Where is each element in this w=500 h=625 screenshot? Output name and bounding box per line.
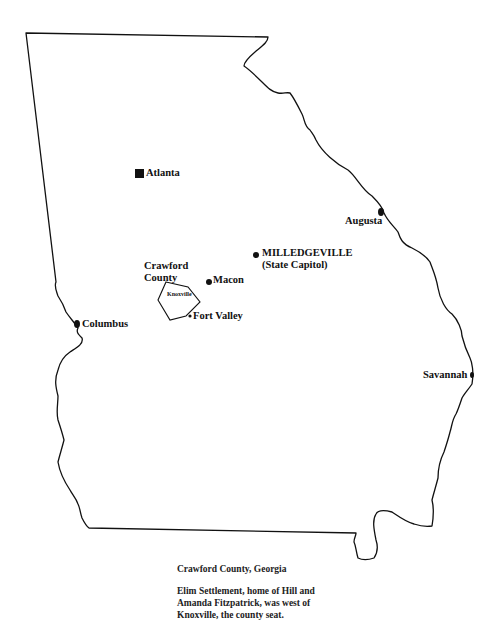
caption-line-3: Knoxville, the county seat.	[177, 609, 284, 621]
macon-label: Macon	[213, 274, 244, 286]
state-capitol-label: (State Capitol)	[262, 259, 328, 271]
caption-line-1: Elim Settlement, home of Hill and	[177, 585, 315, 597]
augusta-label: Augusta	[345, 215, 382, 227]
state-outline	[26, 33, 473, 560]
fort-valley-label: Fort Valley	[193, 310, 243, 322]
macon-marker	[206, 279, 212, 285]
fort-valley-marker	[188, 314, 191, 317]
georgia-map	[0, 0, 500, 625]
caption-line-2: Amanda Fitzpatrick, was west of	[177, 597, 310, 609]
knoxville-label: Knoxville	[167, 291, 192, 298]
county-label-line1: Crawford	[144, 260, 188, 272]
atlanta-label: Atlanta	[146, 167, 180, 179]
columbus-marker	[74, 320, 80, 328]
milledgeville-marker	[253, 252, 259, 258]
caption-title: Crawford County, Georgia	[177, 563, 287, 575]
savannah-marker	[470, 372, 474, 378]
atlanta-marker	[135, 169, 144, 178]
milledgeville-label: MILLEDGEVILLE	[262, 247, 352, 259]
savannah-label: Savannah	[423, 369, 467, 381]
county-label-line2: County	[144, 272, 177, 284]
columbus-label: Columbus	[82, 318, 128, 330]
